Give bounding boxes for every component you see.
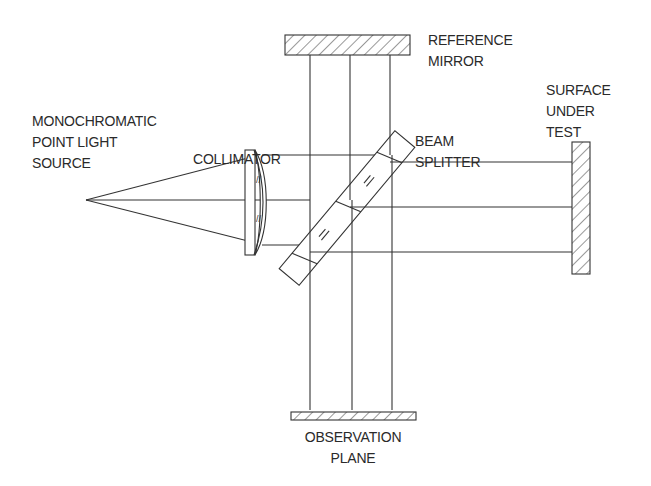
interferometer-diagram: // // bbox=[0, 0, 651, 486]
collimator-label: COLLIMATOR bbox=[193, 149, 281, 170]
beam-label-line2: SPLITTER bbox=[415, 152, 480, 173]
svg-text://: // bbox=[256, 175, 262, 185]
observation-plane-label: OBSERVATION PLANE bbox=[290, 427, 416, 469]
beam-splitter-label: BEAM SPLITTER bbox=[415, 131, 480, 173]
surface-under-test bbox=[572, 142, 590, 274]
optical-schematic: // // bbox=[0, 0, 651, 486]
reference-mirror-label: REFERENCE MIRROR bbox=[428, 30, 513, 72]
svg-text://: // bbox=[256, 214, 262, 224]
source-label-line2: POINT LIGHT bbox=[32, 132, 157, 153]
reference-mirror bbox=[285, 35, 410, 55]
observation-label-line1: OBSERVATION bbox=[290, 427, 416, 448]
reference-label-line1: REFERENCE bbox=[428, 30, 513, 51]
beam-label-line1: BEAM bbox=[415, 131, 480, 152]
observation-plane bbox=[291, 412, 416, 420]
source-label-line1: MONOCHROMATIC bbox=[32, 111, 157, 132]
source-label: MONOCHROMATIC POINT LIGHT SOURCE bbox=[32, 111, 157, 174]
surface-label-line2: UNDER bbox=[546, 101, 611, 122]
surface-label-line3: TEST bbox=[546, 122, 611, 143]
surface-label-line1: SURFACE bbox=[546, 80, 611, 101]
surface-under-test-label: SURFACE UNDER TEST bbox=[546, 80, 611, 143]
observation-label-line2: PLANE bbox=[290, 448, 416, 469]
reference-label-line2: MIRROR bbox=[428, 51, 513, 72]
beam-splitter bbox=[279, 131, 415, 286]
source-label-line3: SOURCE bbox=[32, 153, 157, 174]
